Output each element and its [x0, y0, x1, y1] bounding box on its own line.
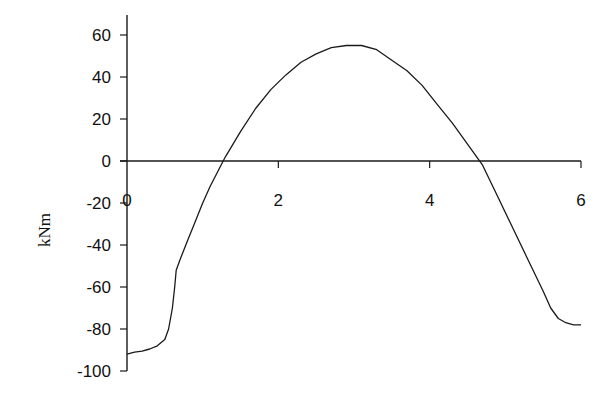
y-tick-label: -40 — [86, 236, 111, 255]
y-tick-label: -80 — [86, 320, 111, 339]
x-tick-label: 2 — [274, 191, 283, 210]
y-tick-label: 0 — [102, 152, 111, 171]
moment-curve — [127, 46, 581, 355]
y-tick-label: 20 — [92, 110, 111, 129]
x-tick-label: 6 — [576, 191, 585, 210]
y-tick-label: -100 — [77, 362, 111, 381]
series-line — [127, 46, 581, 355]
y-tick-label: 60 — [92, 26, 111, 45]
y-tick-label: 40 — [92, 68, 111, 87]
line-chart: 6040200-20-40-60-80-100 0246 kNm — [0, 0, 609, 401]
y-tick-label: -20 — [86, 194, 111, 213]
y-axis: 6040200-20-40-60-80-100 — [77, 15, 127, 381]
x-tick-label: 0 — [122, 191, 131, 210]
y-axis-title: kNm — [35, 213, 54, 247]
x-axis: 0246 — [120, 161, 586, 210]
x-tick-label: 4 — [425, 191, 434, 210]
y-tick-label: -60 — [86, 278, 111, 297]
